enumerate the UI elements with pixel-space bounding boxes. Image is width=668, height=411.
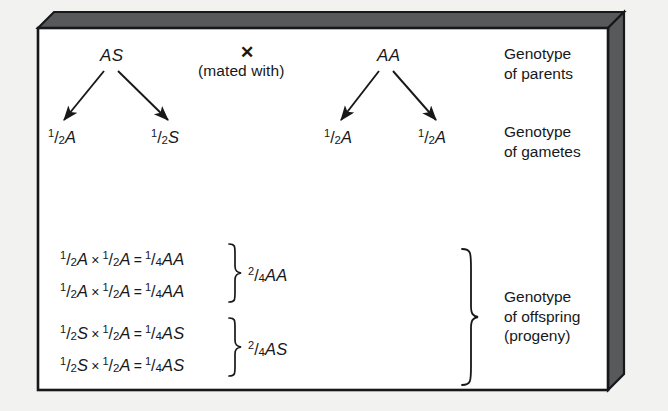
- offspring-equation-3: 1/2S×1/2A=1/4AS: [60, 324, 185, 343]
- row-label-gametes: Genotype of gametes: [504, 122, 581, 161]
- row-label-parents: Genotype of parents: [504, 44, 573, 83]
- group-total-aa: 2/4AA: [248, 266, 288, 285]
- group-brace-aa: [226, 242, 244, 304]
- group-brace-as: [226, 316, 244, 378]
- offspring-equation-2: 1/2A×1/2A=1/4AA: [60, 282, 185, 301]
- group-total-as: 2/4AS: [248, 340, 288, 359]
- gamete-left-1: 1/2A: [48, 124, 76, 150]
- box-top-face: [38, 12, 624, 28]
- gamete-right-1: 1/2A: [324, 124, 352, 150]
- offspring-equation-4: 1/2S×1/2A=1/4AS: [60, 356, 185, 375]
- offspring-equation-1: 1/2A×1/2A=1/4AA: [60, 250, 185, 269]
- gamete-left-2: 1/2S: [151, 124, 179, 150]
- diagram-content: AS ✕ (mated with) AA 1/2A 1/2S: [38, 28, 607, 390]
- box-right-face: [608, 12, 624, 390]
- arrow-as-to-a: [64, 71, 104, 120]
- arrow-aa-to-a-right: [393, 71, 436, 120]
- gamete-right-2: 1/2A: [418, 124, 446, 150]
- offspring-summary-brace: [456, 246, 482, 388]
- arrow-aa-to-a-left: [341, 71, 379, 120]
- genetics-cross-figure: AS ✕ (mated with) AA 1/2A 1/2S: [0, 0, 668, 411]
- arrow-as-to-s: [118, 71, 168, 120]
- row-label-offspring: Genotype of offspring (progeny): [504, 287, 580, 346]
